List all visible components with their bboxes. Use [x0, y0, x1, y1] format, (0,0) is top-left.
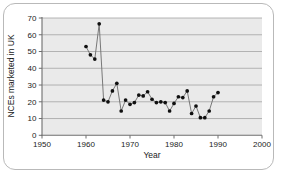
data-point: [199, 116, 203, 120]
data-point: [128, 102, 132, 106]
y-tick-label: 20: [28, 98, 37, 107]
data-point: [159, 100, 163, 104]
x-tick-label: 2000: [253, 140, 271, 149]
x-axis-ticks: 195019601970198019902000: [33, 135, 271, 149]
data-point: [207, 109, 211, 113]
plot-area: [42, 18, 262, 135]
data-point: [172, 102, 176, 106]
x-tick-label: 1950: [33, 140, 51, 149]
data-point: [111, 89, 115, 93]
data-point: [93, 57, 97, 61]
data-point: [102, 98, 106, 102]
y-tick-label: 70: [28, 14, 37, 23]
data-point: [115, 82, 119, 86]
data-point: [133, 101, 137, 105]
y-tick-label: 0: [32, 131, 37, 140]
x-tick-label: 1960: [77, 140, 95, 149]
x-tick-label: 1980: [165, 140, 183, 149]
y-tick-label: 40: [28, 64, 37, 73]
data-point: [163, 101, 167, 105]
data-point: [216, 91, 220, 95]
y-axis-ticks: 010203040506070: [28, 14, 42, 140]
data-point: [150, 97, 154, 101]
x-tick-label: 1990: [209, 140, 227, 149]
data-point: [203, 116, 207, 120]
data-point: [137, 93, 141, 97]
data-point: [194, 104, 198, 108]
data-point: [84, 45, 88, 49]
data-point: [124, 98, 128, 102]
data-point: [181, 96, 185, 100]
data-point: [168, 109, 172, 113]
y-tick-label: 60: [28, 31, 37, 40]
y-tick-label: 50: [28, 47, 37, 56]
data-point: [89, 53, 93, 57]
line-chart: 010203040506070 195019601970198019902000…: [0, 0, 283, 183]
data-point: [185, 89, 189, 93]
y-axis-label: NCEs marketed in UK: [6, 34, 16, 117]
data-point: [106, 100, 110, 104]
data-point: [155, 101, 159, 105]
data-point: [97, 22, 101, 26]
data-point: [141, 94, 145, 98]
data-point: [119, 109, 123, 113]
y-tick-label: 10: [28, 114, 37, 123]
data-point: [177, 95, 181, 99]
data-point: [212, 95, 216, 99]
y-tick-label: 30: [28, 81, 37, 90]
data-point: [190, 112, 194, 116]
x-tick-label: 1970: [121, 140, 139, 149]
x-axis-label: Year: [143, 150, 160, 160]
data-point: [146, 90, 150, 94]
